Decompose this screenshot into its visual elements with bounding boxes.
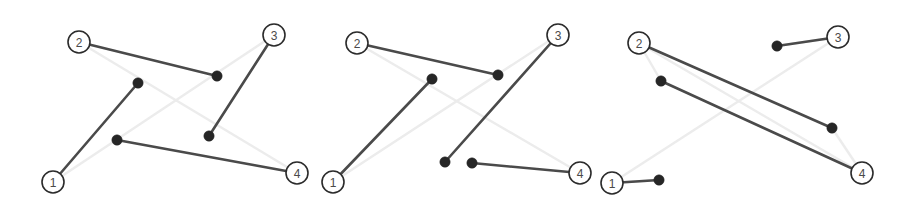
node-label: 2 — [76, 36, 83, 50]
waypoint-dot[interactable] — [827, 123, 837, 133]
node-label: 1 — [330, 176, 337, 190]
node-1[interactable]: 1 — [322, 171, 344, 193]
node-4[interactable]: 4 — [286, 162, 308, 184]
active-edge — [209, 35, 274, 136]
active-edge-layer — [53, 35, 297, 182]
waypoint-layer — [112, 71, 222, 145]
diagram-canvas: 123412341234 — [0, 0, 912, 211]
node-label: 4 — [294, 167, 301, 181]
node-4[interactable]: 4 — [851, 162, 873, 184]
middle-panel: 1234 — [322, 24, 591, 193]
node-label: 4 — [577, 167, 584, 181]
active-edge — [53, 83, 138, 182]
waypoint-dot[interactable] — [204, 131, 214, 141]
active-edge-layer — [333, 35, 580, 182]
node-label: 1 — [50, 176, 57, 190]
node-1[interactable]: 1 — [42, 171, 64, 193]
active-edge — [333, 79, 432, 182]
waypoint-dot[interactable] — [112, 135, 122, 145]
node-label: 2 — [354, 37, 361, 51]
waypoint-dot[interactable] — [467, 158, 477, 168]
node-3[interactable]: 3 — [547, 24, 569, 46]
waypoint-dot[interactable] — [212, 71, 222, 81]
waypoint-dot[interactable] — [440, 157, 450, 167]
faint-edge-layer — [612, 37, 862, 183]
waypoint-dot[interactable] — [654, 175, 664, 185]
node-label: 3 — [271, 29, 278, 43]
node-2[interactable]: 2 — [346, 32, 368, 54]
node-1[interactable]: 1 — [601, 172, 623, 194]
node-label: 3 — [835, 31, 842, 45]
node-2[interactable]: 2 — [68, 31, 90, 53]
node-3[interactable]: 3 — [827, 26, 849, 48]
faint-edge — [53, 35, 274, 182]
faint-edge-layer — [333, 35, 580, 182]
waypoint-dot[interactable] — [133, 78, 143, 88]
node-3[interactable]: 3 — [263, 24, 285, 46]
faint-edge — [639, 43, 862, 173]
node-4[interactable]: 4 — [569, 162, 591, 184]
waypoint-dot[interactable] — [493, 70, 503, 80]
faint-edge — [357, 43, 580, 173]
waypoint-dot[interactable] — [656, 76, 666, 86]
active-edge — [357, 43, 498, 75]
waypoint-dot[interactable] — [772, 41, 782, 51]
left-panel: 1234 — [42, 24, 308, 193]
active-edge — [79, 42, 217, 76]
waypoint-dot[interactable] — [427, 74, 437, 84]
node-2[interactable]: 2 — [628, 32, 650, 54]
waypoint-layer — [427, 70, 503, 168]
node-layer: 1234 — [601, 26, 873, 194]
node-label: 2 — [636, 37, 643, 51]
node-label: 4 — [859, 167, 866, 181]
right-panel: 1234 — [601, 26, 873, 194]
node-label: 3 — [555, 29, 562, 43]
node-label: 1 — [609, 177, 616, 191]
node-layer: 1234 — [322, 24, 591, 193]
routing-diagram-figure: 123412341234 — [0, 0, 912, 211]
